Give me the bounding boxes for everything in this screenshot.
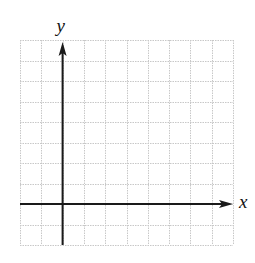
grid-lines xyxy=(20,40,234,246)
coordinate-plane xyxy=(0,0,255,263)
y-axis-label: y xyxy=(57,16,65,35)
x-axis-label: x xyxy=(239,192,247,211)
